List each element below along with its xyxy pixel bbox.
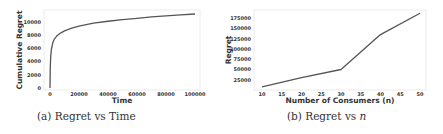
y-tick-label: 50000 [234,66,252,72]
y-tick-label: 25000 [234,77,252,83]
x-tick-label: 100000 [185,91,206,97]
x-tick-label: 80000 [157,91,175,97]
x-tick-label: 10 [259,91,266,97]
caption-regret-vs-time: (a) Regret vs Time [37,110,136,122]
regret-vs-time-chart: 0200040006000800010000020000400006000080… [0,0,222,110]
x-tick-label: 20000 [70,91,88,97]
y-axis-label: Regret [224,35,233,64]
regret-vs-n-chart: 2500050000750001000001250001500001750001… [222,0,443,110]
y-tick-label: 4000 [27,58,41,64]
chart-panel-regret-vs-n: 2500050000750001000001250001500001750001… [222,0,443,134]
chart-panel-regret-vs-time: 0200040006000800010000020000400006000080… [0,0,222,134]
y-tick-label: 2000 [27,72,41,78]
data-line [50,14,195,88]
y-tick-label: 150000 [230,25,251,31]
x-axis-label: Time [112,96,133,105]
caption-variable: n [360,110,367,122]
y-tick-label: 75000 [234,56,252,62]
y-tick-label: 125000 [230,36,251,42]
plot-frame [254,10,426,90]
x-axis-label: Number of Consumers (n) [286,96,395,105]
caption-text: (a) Regret vs Time [37,110,136,122]
y-tick-label: 100000 [230,46,251,52]
x-tick-label: 50 [417,91,424,97]
caption-regret-vs-n: (b) Regret vs n [287,110,366,122]
y-tick-label: 10000 [24,19,42,25]
y-tick-label: 8000 [27,32,41,38]
data-line [262,13,420,87]
y-tick-label: 0 [38,85,42,91]
x-tick-label: 0 [48,91,52,97]
caption-text: (b) Regret vs [287,110,360,122]
y-tick-label: 6000 [27,45,41,51]
x-tick-label: 45 [397,91,404,97]
plot-frame [44,10,200,90]
y-axis-label: Cumulative Regret [15,10,24,89]
y-tick-label: 175000 [230,15,251,21]
